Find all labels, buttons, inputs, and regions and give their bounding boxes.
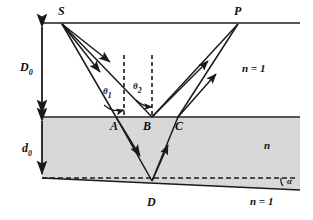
d0-small-subscript: 0 xyxy=(28,149,32,158)
point-label-b: B xyxy=(143,120,151,132)
angle-label-alpha: α xyxy=(287,177,292,186)
reflected-ray-b-to-p xyxy=(152,24,238,117)
point-label-s: S xyxy=(58,5,65,17)
point-label-p: P xyxy=(234,5,241,17)
point-label-c: C xyxy=(175,120,183,132)
incident-ray-s-to-b xyxy=(62,24,152,117)
diagram-canvas xyxy=(0,0,313,220)
medium-label-lower: n = 1 xyxy=(250,196,273,207)
emergent-ray-c-to-p-arrow xyxy=(178,74,216,117)
incident-ray-s-to-b-arrow xyxy=(62,24,110,62)
theta2-subscript: 2 xyxy=(138,86,142,95)
point-label-d: D xyxy=(147,196,156,208)
angle-label-theta2: θ2 xyxy=(133,76,142,95)
angle-label-theta1: θ1 xyxy=(103,81,112,100)
dimension-label-d0-small: d0 xyxy=(22,139,32,158)
d0-symbol: D xyxy=(20,60,29,74)
ray-diagram-figure: S P A B C D θ1 θ2 α D0 d0 n = 1 n n = 1 xyxy=(0,0,313,220)
dimension-label-d0: D0 xyxy=(20,58,33,77)
theta1-angle-arc xyxy=(104,105,124,111)
medium-label-slab: n xyxy=(264,140,270,151)
medium-label-upper: n = 1 xyxy=(242,63,265,74)
theta1-subscript: 1 xyxy=(108,91,112,100)
incident-ray-s-to-a-arrow xyxy=(62,24,100,72)
d0-subscript: 0 xyxy=(29,68,33,77)
emergent-ray-c-to-p xyxy=(178,24,238,117)
point-label-a: A xyxy=(110,120,118,132)
